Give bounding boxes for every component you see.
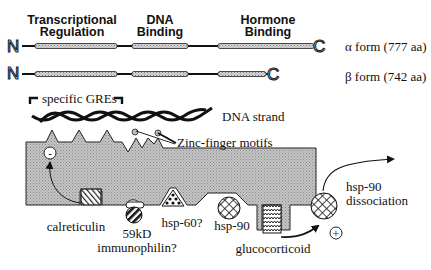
minus-sign: - bbox=[48, 147, 52, 159]
dna-domain-beta bbox=[132, 72, 188, 77]
dissociation-label-line1: hsp-90 bbox=[346, 179, 381, 194]
n-terminus-beta: N bbox=[7, 64, 19, 83]
hsp90-bound: hsp-90 bbox=[214, 197, 249, 233]
c-terminus-beta: C bbox=[267, 65, 279, 84]
dna-domain-alpha bbox=[132, 44, 188, 49]
plus-sign: + bbox=[333, 227, 340, 241]
regulation-label: Regulation bbox=[40, 25, 105, 39]
dna-strand-label: DNA strand bbox=[222, 109, 285, 124]
glucocorticoid-receptor-diagram: Transcriptional Regulation DNA Binding H… bbox=[0, 0, 431, 270]
specific-gres: specific GREs bbox=[30, 91, 122, 106]
domain-headers: Transcriptional Regulation DNA Binding H… bbox=[27, 13, 295, 39]
dna-strand: DNA strand bbox=[32, 108, 285, 124]
dissociation-label-line2: dissociation bbox=[346, 193, 409, 208]
hsp90-label: hsp-90 bbox=[214, 218, 249, 233]
n-terminus-alpha: N bbox=[7, 37, 19, 56]
positive-charge: + bbox=[330, 227, 342, 241]
hormone-domain-beta bbox=[218, 72, 266, 77]
alpha-form-label: α form (777 aa) bbox=[345, 39, 427, 54]
immunophilin-label-line1: 59kD bbox=[123, 226, 152, 241]
immunophilin-label-line2: immunophilin? bbox=[97, 240, 177, 255]
hormone-binding-label: Binding bbox=[245, 25, 292, 39]
zinc-finger-label: Zinc-finger motifs bbox=[177, 135, 273, 150]
transcriptional-domain-alpha bbox=[35, 44, 117, 49]
negative-charge: - bbox=[44, 147, 56, 159]
hsp60-label: hsp-60? bbox=[161, 215, 202, 230]
hsp90-dissociated: hsp-90 dissociation bbox=[311, 179, 409, 219]
beta-form: N C β form (742 aa) bbox=[7, 64, 426, 84]
glucocorticoid-label: glucocorticoid bbox=[235, 241, 311, 256]
transcriptional-domain-beta bbox=[35, 72, 117, 77]
binding-label: Binding bbox=[137, 25, 184, 39]
hormone-domain-alpha bbox=[218, 44, 314, 49]
alpha-form: N C α form (777 aa) bbox=[7, 37, 427, 56]
c-terminus-alpha: C bbox=[313, 37, 325, 56]
calreticulin-label: calreticulin bbox=[47, 219, 106, 234]
specific-gres-label: specific GREs bbox=[42, 91, 117, 106]
beta-form-label: β form (742 aa) bbox=[345, 69, 426, 84]
